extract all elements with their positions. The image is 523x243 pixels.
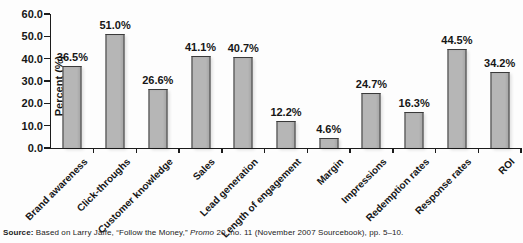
y-tick-mark xyxy=(44,103,50,105)
y-tick-mark xyxy=(44,147,50,149)
source-journal-name: Promo xyxy=(190,228,214,237)
bar xyxy=(106,34,125,148)
x-tick-mark xyxy=(221,148,223,153)
y-tick-label: 60.0 xyxy=(22,8,43,20)
x-tick-mark xyxy=(307,148,309,153)
source-text-after: 20, no. 11 (November 2007 Sourcebook), p… xyxy=(214,228,403,237)
bar-value-label: 36.5% xyxy=(57,51,88,63)
bar-value-label: 41.1% xyxy=(185,41,216,53)
x-tick-mark xyxy=(520,148,522,153)
y-tick-label: 10.0 xyxy=(22,120,43,132)
source-note: Source: Based on Larry Jaffe, “Follow th… xyxy=(3,228,403,237)
bar xyxy=(234,57,253,148)
source-label: Source: xyxy=(3,228,34,237)
bar-slot: 16.3%Redemption rates xyxy=(393,14,436,148)
bar xyxy=(405,112,424,148)
category-label: Brand awareness xyxy=(23,156,89,222)
x-tick-mark xyxy=(349,148,351,153)
bar-slot: 44.5%Response rates xyxy=(436,14,479,148)
bar xyxy=(148,89,167,148)
x-tick-mark xyxy=(93,148,95,153)
x-tick-mark xyxy=(178,148,180,153)
bar xyxy=(191,56,210,148)
x-tick-mark xyxy=(435,148,437,153)
bar-slot: 26.6%Customer knowledge xyxy=(136,14,179,148)
plot-area: Percent (%) 60.050.040.030.020.010.00.03… xyxy=(50,14,521,149)
bar-value-label: 26.6% xyxy=(142,74,173,86)
y-tick-mark xyxy=(44,125,50,127)
bar-slot: 12.2%Length of engagement xyxy=(265,14,308,148)
x-tick-mark xyxy=(392,148,394,153)
y-tick-label: 40.0 xyxy=(22,53,43,65)
category-label: ROI xyxy=(496,156,516,176)
bar xyxy=(362,93,381,148)
bar-slot: 34.2%ROI xyxy=(478,14,521,148)
y-tick-mark xyxy=(44,80,50,82)
bar-slot: 41.1%Sales xyxy=(179,14,222,148)
bar-value-label: 34.2% xyxy=(484,57,515,69)
bar-slot: 36.5%Brand awareness xyxy=(51,14,94,148)
bar-slot: 4.6%Margin xyxy=(307,14,350,148)
bar-slot: 24.7%Impressions xyxy=(350,14,393,148)
bar xyxy=(490,72,509,148)
bar-value-label: 40.7% xyxy=(228,42,259,54)
bar-chart-figure: Percent (%) 60.050.040.030.020.010.00.03… xyxy=(0,0,523,243)
category-label: Sales xyxy=(191,156,217,182)
bar xyxy=(63,66,82,148)
bar-value-label: 44.5% xyxy=(441,34,472,46)
bar xyxy=(319,138,338,148)
category-label: Margin xyxy=(315,156,346,187)
bar-value-label: 16.3% xyxy=(399,97,430,109)
bar-value-label: 51.0% xyxy=(99,19,130,31)
y-tick-mark xyxy=(44,13,50,15)
source-text-before: Based on Larry Jaffe, “Follow the Money,… xyxy=(34,228,191,237)
category-label: Customer knowledge xyxy=(95,156,174,235)
bar-slot: 40.7%Lead generation xyxy=(222,14,265,148)
bar-value-label: 24.7% xyxy=(356,78,387,90)
bar-value-label: 12.2% xyxy=(270,106,301,118)
bar-value-label: 4.6% xyxy=(316,123,341,135)
y-tick-label: 50.0 xyxy=(22,30,43,42)
bar xyxy=(276,121,295,148)
y-tick-mark xyxy=(44,58,50,60)
y-tick-mark xyxy=(44,36,50,38)
y-tick-label: 30.0 xyxy=(22,75,43,87)
bar-slot: 51.0%Click-throughs xyxy=(94,14,137,148)
bar xyxy=(447,49,466,148)
x-tick-mark xyxy=(264,148,266,153)
x-tick-mark xyxy=(136,148,138,153)
y-tick-label: 20.0 xyxy=(22,97,43,109)
y-tick-label: 0.0 xyxy=(28,142,43,154)
x-tick-mark xyxy=(478,148,480,153)
